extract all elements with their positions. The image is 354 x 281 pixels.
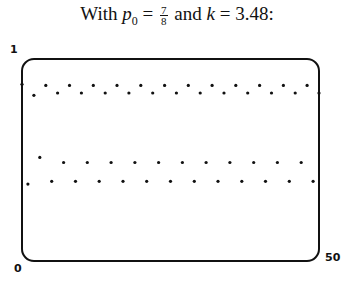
data-point xyxy=(240,180,243,183)
data-point xyxy=(312,180,315,183)
data-point xyxy=(216,180,219,183)
data-point xyxy=(110,161,113,164)
data-point xyxy=(246,91,249,94)
data-point xyxy=(151,91,154,94)
data-point xyxy=(187,84,190,87)
data-point xyxy=(193,180,196,183)
data-point xyxy=(62,161,65,164)
data-point xyxy=(133,161,136,164)
data-point xyxy=(157,161,160,164)
data-point xyxy=(228,161,231,164)
data-point xyxy=(127,91,130,94)
data-point xyxy=(181,161,184,164)
data-point xyxy=(98,180,101,183)
data-point xyxy=(104,91,107,94)
data-point xyxy=(199,91,202,94)
data-point xyxy=(282,84,285,87)
data-point xyxy=(92,84,95,87)
data-point xyxy=(38,156,41,159)
data-point xyxy=(205,161,208,164)
data-point xyxy=(115,84,118,87)
data-point xyxy=(163,84,166,87)
data-point xyxy=(80,91,83,94)
data-point xyxy=(86,161,89,164)
data-point xyxy=(317,91,320,94)
data-points xyxy=(20,83,320,186)
data-point xyxy=(169,180,172,183)
plot-frame xyxy=(22,59,319,261)
data-point xyxy=(276,161,279,164)
data-point xyxy=(294,91,297,94)
data-point xyxy=(288,180,291,183)
data-point xyxy=(44,84,47,87)
data-point xyxy=(270,91,273,94)
data-point xyxy=(145,180,148,183)
data-point xyxy=(175,91,178,94)
data-point xyxy=(300,161,303,164)
data-point xyxy=(258,84,261,87)
data-point xyxy=(26,183,29,186)
data-point xyxy=(264,180,267,183)
data-point xyxy=(74,180,77,183)
data-point xyxy=(306,84,309,87)
data-point xyxy=(32,94,35,97)
data-point xyxy=(121,180,124,183)
data-point xyxy=(56,91,59,94)
data-point xyxy=(211,84,214,87)
data-point xyxy=(68,84,71,87)
data-point xyxy=(20,83,23,86)
data-point xyxy=(139,84,142,87)
data-point xyxy=(222,91,225,94)
data-point xyxy=(50,180,53,183)
plot-area xyxy=(0,0,354,281)
data-point xyxy=(234,84,237,87)
data-point xyxy=(252,161,255,164)
